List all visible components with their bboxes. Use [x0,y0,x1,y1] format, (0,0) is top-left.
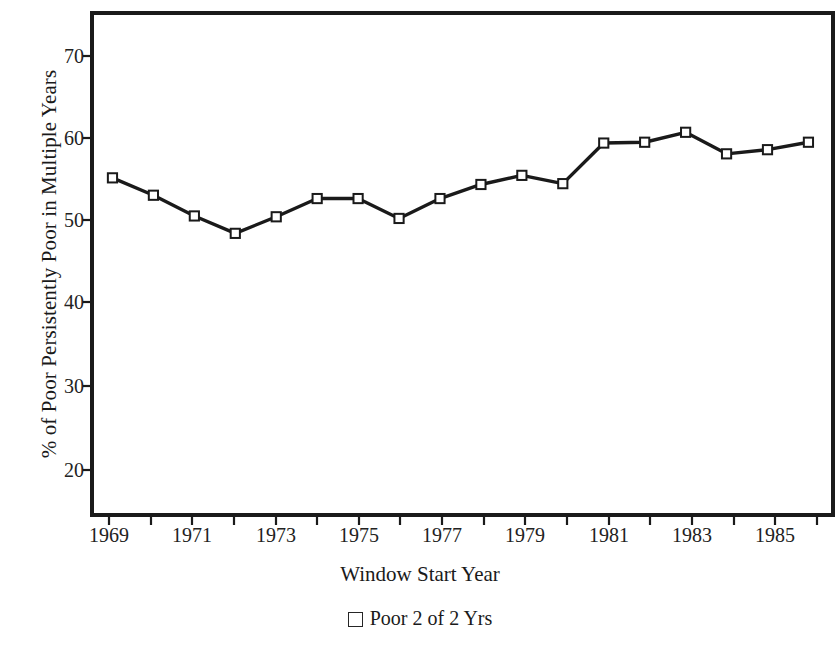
data-point-marker [558,179,567,188]
data-point-marker [108,173,117,182]
x-tick-label: 1969 [74,523,144,547]
x-tick-label: 1979 [490,523,560,547]
data-point-marker [394,214,403,223]
data-point-marker [272,212,281,221]
x-tick-label: 1971 [157,523,227,547]
x-tick-label: 1981 [574,523,644,547]
data-point-marker [476,180,485,189]
plot-frame [92,13,833,515]
data-point-marker [681,128,690,137]
data-point-marker [435,194,444,203]
data-point-marker [354,194,363,203]
data-point-marker [190,211,199,220]
x-tick-label: 1983 [657,523,727,547]
x-tick-label: 1985 [740,523,810,547]
legend-marker-open-square-icon [348,612,363,627]
chart-legend: Poor 2 of 2 Yrs [0,607,840,630]
data-point-marker [722,149,731,158]
data-point-marker [231,229,240,238]
data-point-marker [313,194,322,203]
data-point-marker [640,138,649,147]
chart-figure: % of Poor Persistently Poor in Multiple … [0,0,840,649]
x-tick-label: 1977 [407,523,477,547]
x-axis-tick-labels: 1969 1971 1973 1975 1977 1979 1981 1983 … [0,523,840,553]
x-tick-label: 1973 [241,523,311,547]
data-point-marker [599,138,608,147]
data-point-marker [149,191,158,200]
legend-label: Poor 2 of 2 Yrs [370,607,493,630]
x-axis-title: Window Start Year [0,562,840,587]
x-tick-label: 1975 [324,523,394,547]
data-point-marker [517,171,526,180]
data-point-marker [763,145,772,154]
data-point-marker [804,138,813,147]
